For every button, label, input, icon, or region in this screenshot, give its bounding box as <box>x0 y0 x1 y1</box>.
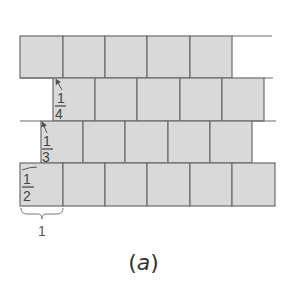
caption-open-paren: ( <box>128 250 137 275</box>
half-denominator: 2 <box>23 188 31 204</box>
brick-row-1 <box>20 36 232 78</box>
unit-width-label: 1 <box>38 223 46 239</box>
third-denominator: 3 <box>42 149 50 165</box>
caption-close-paren: ) <box>150 250 159 275</box>
third-numerator: 1 <box>43 133 51 149</box>
brick-row-2 <box>53 78 264 121</box>
figure-caption: (a) <box>0 250 287 275</box>
brick-row-3 <box>41 121 252 163</box>
half-numerator: 1 <box>23 171 31 187</box>
brick-row-4 <box>20 163 275 206</box>
quarter-denominator: 4 <box>55 106 63 122</box>
quarter-numerator: 1 <box>57 90 65 106</box>
caption-letter: a <box>137 250 150 275</box>
width-brace <box>21 208 63 219</box>
